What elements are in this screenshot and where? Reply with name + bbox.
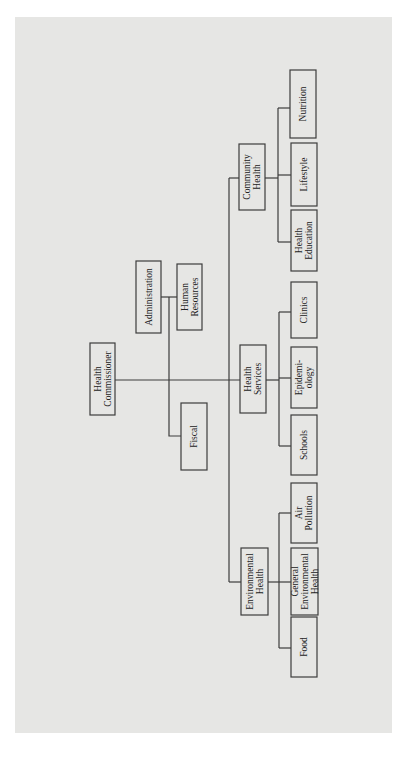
node-label: Clinics <box>299 296 309 323</box>
node-label-line: Schools <box>299 430 309 460</box>
node-label: Fiscal <box>189 425 199 448</box>
node-community-health: CommunityHealth <box>239 144 265 210</box>
node-environmental-health: EnvironmentalHealth <box>241 548 268 615</box>
node-label: Administration <box>144 268 154 326</box>
node-label: HealthServices <box>243 363 263 395</box>
node-health-services: HealthServices <box>240 345 266 413</box>
node-label-line: Health <box>255 569 265 595</box>
node-label-line: Health <box>310 569 320 595</box>
node-label-line: Education <box>304 221 314 260</box>
node-label-line: Fiscal <box>189 425 199 448</box>
node-label: HumanResources <box>180 277 200 316</box>
node-label-line: Health <box>243 366 253 392</box>
node-label-line: Health <box>252 164 262 190</box>
node-general-environmental-health: GeneralEnvironmentalHealth <box>290 548 320 615</box>
org-chart: HealthCommissionerAdministrationHumanRes… <box>0 0 401 759</box>
node-label-line: Resources <box>190 277 200 316</box>
node-label-line: Commissioner <box>103 350 113 406</box>
node-nutrition: Nutrition <box>290 70 316 138</box>
node-clinics: Clinics <box>291 282 317 338</box>
node-label-line: Lifestyle <box>299 158 309 192</box>
node-schools: Schools <box>291 415 317 475</box>
node-label-line: Health <box>294 228 304 254</box>
node-label-line: ology <box>304 366 314 388</box>
node-food: Food <box>291 617 317 677</box>
node-label-line: Health <box>93 366 103 392</box>
node-label-line: Services <box>253 363 263 395</box>
node-fiscal: Fiscal <box>181 403 207 470</box>
node-label-line: Air <box>294 506 304 520</box>
node-label-line: Human <box>180 283 190 311</box>
node-label-line: Clinics <box>299 296 309 323</box>
node-label-line: Environmental <box>245 553 255 610</box>
node-label-line: Food <box>299 637 309 657</box>
node-label-line: Epidemi- <box>294 360 304 395</box>
node-label: Lifestyle <box>299 158 309 192</box>
node-lifestyle: Lifestyle <box>291 143 317 206</box>
node-label-line: Nutrition <box>298 86 308 121</box>
node-epidemiology: Epidemi-ology <box>291 347 317 408</box>
node-label: Food <box>299 637 309 657</box>
node-air-pollution: AirPollution <box>291 483 317 543</box>
node-label-line: General <box>290 566 300 596</box>
node-human-resources: HumanResources <box>177 264 202 330</box>
nodes: HealthCommissionerAdministrationHumanRes… <box>90 70 320 677</box>
node-administration: Administration <box>136 261 161 333</box>
node-health-education: HealthEducation <box>291 210 317 271</box>
node-label-line: Administration <box>144 268 154 326</box>
node-label-line: Environmental <box>300 553 310 610</box>
node-label: Nutrition <box>298 86 308 121</box>
node-label-line: Community <box>242 154 252 200</box>
node-commissioner: HealthCommissioner <box>90 343 115 415</box>
node-label: Schools <box>299 430 309 460</box>
node-label-line: Pollution <box>304 495 314 530</box>
